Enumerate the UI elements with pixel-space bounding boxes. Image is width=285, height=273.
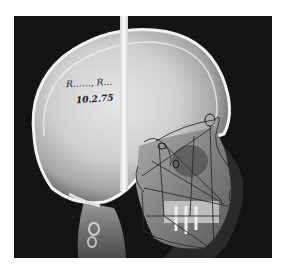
skull-xray-illustration bbox=[14, 16, 272, 258]
radiograph: R……, R… 10.2.75 bbox=[14, 16, 272, 258]
